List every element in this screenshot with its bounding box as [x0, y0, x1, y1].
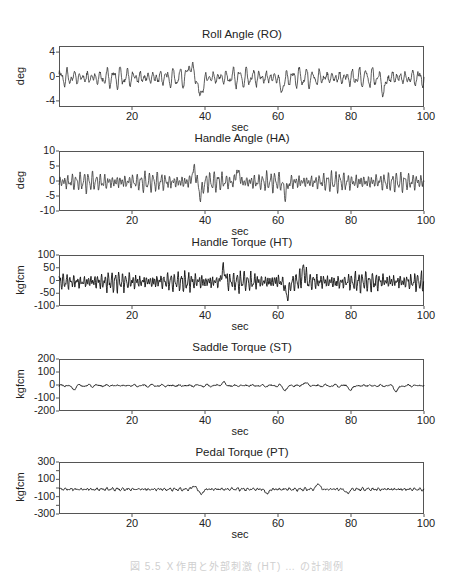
figure-caption: 図 5.5 Ｘ作用と外部刺激 (HT) … の計測例 [130, 558, 330, 573]
series-line [59, 484, 424, 495]
